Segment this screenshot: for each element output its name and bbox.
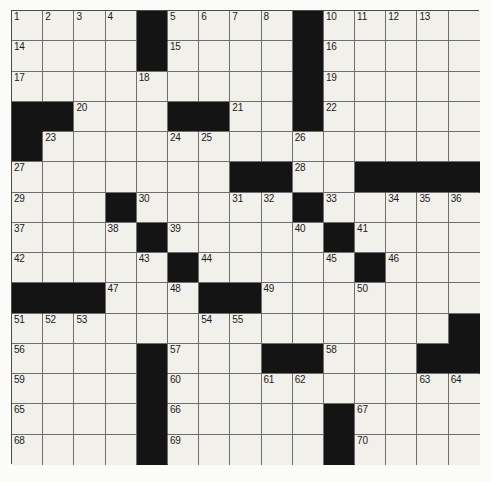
grid-cell[interactable]: [449, 132, 480, 162]
grid-cell[interactable]: 6: [199, 11, 230, 41]
grid-cell[interactable]: [230, 72, 261, 102]
grid-cell[interactable]: 65: [12, 404, 43, 434]
crossword-grid[interactable]: 1234567810111213141516171819202122232425…: [11, 10, 479, 464]
grid-cell[interactable]: 24: [168, 132, 199, 162]
grid-cell[interactable]: [199, 223, 230, 253]
grid-cell[interactable]: [386, 102, 417, 132]
grid-cell[interactable]: 32: [262, 193, 293, 223]
grid-cell[interactable]: [43, 253, 74, 283]
grid-cell[interactable]: 57: [168, 344, 199, 374]
grid-cell[interactable]: 53: [74, 314, 105, 344]
grid-cell[interactable]: [324, 374, 355, 404]
grid-cell[interactable]: 63: [417, 374, 448, 404]
grid-cell[interactable]: [199, 41, 230, 71]
grid-cell[interactable]: 5: [168, 11, 199, 41]
grid-cell[interactable]: 20: [74, 102, 105, 132]
grid-cell[interactable]: [106, 102, 137, 132]
grid-cell[interactable]: [417, 435, 448, 465]
grid-cell[interactable]: [293, 435, 324, 465]
grid-cell[interactable]: [230, 41, 261, 71]
grid-cell[interactable]: 4: [106, 11, 137, 41]
grid-cell[interactable]: [417, 283, 448, 313]
grid-cell[interactable]: 18: [137, 72, 168, 102]
grid-cell[interactable]: [449, 102, 480, 132]
grid-cell[interactable]: [262, 102, 293, 132]
grid-cell[interactable]: [199, 162, 230, 192]
grid-cell[interactable]: [386, 72, 417, 102]
grid-cell[interactable]: 1: [12, 11, 43, 41]
grid-cell[interactable]: [230, 435, 261, 465]
grid-cell[interactable]: 50: [355, 283, 386, 313]
grid-cell[interactable]: 13: [417, 11, 448, 41]
grid-cell[interactable]: 55: [230, 314, 261, 344]
grid-cell[interactable]: [199, 404, 230, 434]
grid-cell[interactable]: [386, 132, 417, 162]
grid-cell[interactable]: [293, 314, 324, 344]
grid-cell[interactable]: 29: [12, 193, 43, 223]
grid-cell[interactable]: [230, 253, 261, 283]
grid-cell[interactable]: [355, 72, 386, 102]
grid-cell[interactable]: 44: [199, 253, 230, 283]
grid-cell[interactable]: [386, 435, 417, 465]
grid-cell[interactable]: [106, 314, 137, 344]
grid-cell[interactable]: 69: [168, 435, 199, 465]
grid-cell[interactable]: [74, 132, 105, 162]
grid-cell[interactable]: 61: [262, 374, 293, 404]
grid-cell[interactable]: [262, 404, 293, 434]
grid-cell[interactable]: [355, 314, 386, 344]
grid-cell[interactable]: 7: [230, 11, 261, 41]
grid-cell[interactable]: [417, 102, 448, 132]
grid-cell[interactable]: [74, 162, 105, 192]
grid-cell[interactable]: 39: [168, 223, 199, 253]
grid-cell[interactable]: 45: [324, 253, 355, 283]
grid-cell[interactable]: [386, 374, 417, 404]
grid-cell[interactable]: 23: [43, 132, 74, 162]
grid-cell[interactable]: 22: [324, 102, 355, 132]
grid-cell[interactable]: 14: [12, 41, 43, 71]
grid-cell[interactable]: [43, 193, 74, 223]
grid-cell[interactable]: [168, 193, 199, 223]
grid-cell[interactable]: [386, 314, 417, 344]
grid-cell[interactable]: [262, 41, 293, 71]
grid-cell[interactable]: 46: [386, 253, 417, 283]
grid-cell[interactable]: [293, 404, 324, 434]
grid-cell[interactable]: 33: [324, 193, 355, 223]
grid-cell[interactable]: [230, 404, 261, 434]
grid-cell[interactable]: [449, 41, 480, 71]
grid-cell[interactable]: [74, 72, 105, 102]
grid-cell[interactable]: 64: [449, 374, 480, 404]
grid-cell[interactable]: [262, 435, 293, 465]
grid-cell[interactable]: 21: [230, 102, 261, 132]
grid-cell[interactable]: 16: [324, 41, 355, 71]
grid-cell[interactable]: [324, 283, 355, 313]
grid-cell[interactable]: [137, 162, 168, 192]
grid-cell[interactable]: [74, 404, 105, 434]
grid-cell[interactable]: [199, 374, 230, 404]
grid-cell[interactable]: 34: [386, 193, 417, 223]
grid-cell[interactable]: [355, 102, 386, 132]
grid-cell[interactable]: [355, 41, 386, 71]
grid-cell[interactable]: 68: [12, 435, 43, 465]
grid-cell[interactable]: [449, 435, 480, 465]
grid-cell[interactable]: [43, 374, 74, 404]
grid-cell[interactable]: [137, 132, 168, 162]
grid-cell[interactable]: 59: [12, 374, 43, 404]
grid-cell[interactable]: [106, 132, 137, 162]
grid-cell[interactable]: 47: [106, 283, 137, 313]
grid-cell[interactable]: 70: [355, 435, 386, 465]
grid-cell[interactable]: [43, 223, 74, 253]
grid-cell[interactable]: [449, 11, 480, 41]
grid-cell[interactable]: 19: [324, 72, 355, 102]
grid-cell[interactable]: [137, 102, 168, 132]
grid-cell[interactable]: [106, 435, 137, 465]
grid-cell[interactable]: [74, 435, 105, 465]
grid-cell[interactable]: 30: [137, 193, 168, 223]
grid-cell[interactable]: [417, 404, 448, 434]
grid-cell[interactable]: [43, 41, 74, 71]
grid-cell[interactable]: [106, 404, 137, 434]
grid-cell[interactable]: [449, 404, 480, 434]
grid-cell[interactable]: [43, 344, 74, 374]
grid-cell[interactable]: [262, 253, 293, 283]
grid-cell[interactable]: [106, 253, 137, 283]
grid-cell[interactable]: 66: [168, 404, 199, 434]
